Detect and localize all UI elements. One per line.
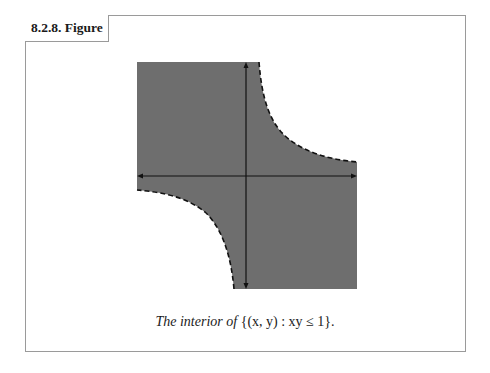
caption-text: The interior of [155,314,237,329]
figure-caption: The interior of {(x, y) : xy ≤ 1}. [0,313,490,331]
caption-math: {(x, y) : xy ≤ 1}. [237,314,334,329]
